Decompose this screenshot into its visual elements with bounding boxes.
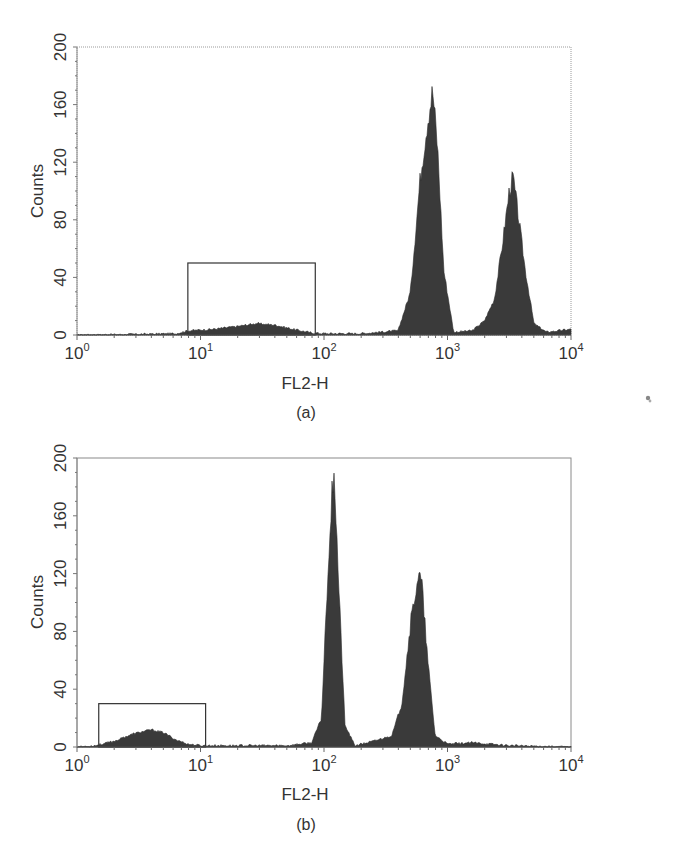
x-tick-label: 101	[188, 341, 213, 363]
y-tick-label: 160	[51, 90, 70, 118]
x-tick-label: 104	[558, 341, 583, 363]
y-axis-title-a: Counts	[28, 164, 47, 218]
x-tick-label: 100	[64, 341, 89, 363]
histogram-chart-b: 04080120160200 100101102103104 Counts FL…	[0, 430, 679, 867]
x-tick-label: 101	[188, 753, 213, 775]
x-tick-labels-b: 100101102103104	[64, 753, 583, 775]
y-tick-label: 0	[51, 330, 70, 339]
histogram-fill-a	[77, 87, 571, 336]
y-tick-labels-b: 04080120160200	[51, 444, 70, 752]
y-tick-label: 160	[51, 502, 70, 530]
x-ticks-a	[77, 335, 571, 340]
y-tick-labels-a: 04080120160200	[51, 33, 70, 340]
y-tick-label: 120	[51, 559, 70, 587]
x-tick-label: 100	[64, 753, 89, 775]
y-tick-label: 200	[51, 33, 70, 61]
x-tick-labels-a: 100101102103104	[64, 341, 583, 363]
caption-a: (a)	[296, 404, 316, 421]
x-axis-title-b: FL2-H	[281, 785, 328, 804]
x-axis-title-a: FL2-H	[281, 374, 328, 393]
y-tick-label: 80	[51, 210, 70, 229]
histogram-fill-b	[77, 473, 571, 747]
x-tick-label: 104	[558, 753, 583, 775]
histogram-panel-b: 04080120160200 100101102103104 Counts FL…	[0, 430, 679, 867]
speck-artifact	[646, 396, 652, 403]
x-tick-label: 103	[435, 341, 460, 363]
histogram-chart-a: 04080120160200 100101102103104 Counts FL…	[0, 0, 679, 430]
y-tick-label: 80	[51, 622, 70, 641]
y-tick-label: 0	[51, 742, 70, 751]
y-axis-title-b: Counts	[28, 575, 47, 629]
histogram-panel-a: 04080120160200 100101102103104 Counts FL…	[0, 0, 679, 430]
plot-area-a	[73, 47, 571, 340]
y-tick-label: 40	[51, 268, 70, 287]
y-tick-label: 40	[51, 680, 70, 699]
y-ticks-b	[73, 458, 77, 747]
plot-area-b	[73, 458, 571, 752]
y-tick-label: 200	[51, 444, 70, 472]
y-ticks-a	[73, 47, 77, 335]
x-tick-label: 102	[311, 753, 336, 775]
y-tick-label: 120	[51, 148, 70, 176]
x-tick-label: 102	[311, 341, 336, 363]
x-ticks-b	[77, 747, 571, 752]
caption-b: (b)	[296, 816, 316, 833]
x-tick-label: 103	[435, 753, 460, 775]
